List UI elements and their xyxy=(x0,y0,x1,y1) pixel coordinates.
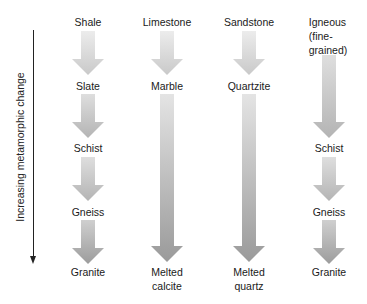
rock-label-sandstone: Sandstone xyxy=(224,16,274,28)
rock-label-gneiss: Gneiss xyxy=(313,206,346,218)
medium-down-arrow-icon xyxy=(313,55,345,138)
long-down-arrow-icon xyxy=(233,94,265,262)
label-line: calcite xyxy=(151,280,183,292)
rock-label-slate: Slate xyxy=(76,80,100,92)
label-line: quartz xyxy=(233,280,265,292)
rock-label-marble: Marble xyxy=(151,80,183,92)
short-down-arrow-icon xyxy=(151,31,183,75)
rock-label-schist: Schist xyxy=(74,142,103,154)
short-down-arrow-icon xyxy=(313,157,345,201)
label-line: Melted xyxy=(151,266,183,278)
rock-label-gneiss: Gneiss xyxy=(72,206,105,218)
rock-label-quartzite: Quartzite xyxy=(228,80,271,92)
rock-label-melted-calcite: Melted calcite xyxy=(151,266,183,292)
axis-line xyxy=(33,30,34,258)
rock-label-melted-quartz: Melted quartz xyxy=(233,266,265,292)
rock-label-limestone: Limestone xyxy=(143,16,191,28)
rock-label-granite: Granite xyxy=(312,266,346,278)
rock-label-igneous: Igneous (fine- grained) xyxy=(309,16,348,56)
axis-arrowhead-icon xyxy=(30,256,36,264)
short-down-arrow-icon xyxy=(72,31,104,75)
short-down-arrow-icon xyxy=(313,220,345,264)
axis-label: Increasing metamorphic change xyxy=(14,72,26,221)
label-line: (fine- xyxy=(309,30,348,42)
label-line: Igneous xyxy=(309,16,348,28)
short-down-arrow-icon xyxy=(72,157,104,201)
rock-label-granite: Granite xyxy=(71,266,105,278)
label-line: Melted xyxy=(233,266,265,278)
long-down-arrow-icon xyxy=(151,94,183,262)
short-down-arrow-icon xyxy=(72,94,104,138)
rock-label-schist: Schist xyxy=(315,142,344,154)
short-down-arrow-icon xyxy=(233,31,265,75)
short-down-arrow-icon xyxy=(72,220,104,264)
rock-label-shale: Shale xyxy=(75,16,102,28)
